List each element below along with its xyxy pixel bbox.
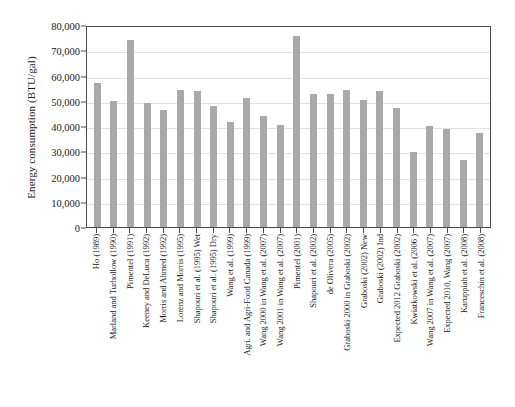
y-axis-tick-label: 50,000 — [51, 96, 80, 107]
y-axis-tick-label: 10,000 — [51, 197, 80, 208]
bar — [194, 91, 201, 227]
x-axis-label-slot: Graboski (2002) Ind — [372, 234, 389, 407]
x-axis-tick-mark — [363, 228, 364, 233]
x-axis-label-slot: Franceschin et al. (2008) — [472, 234, 489, 407]
x-axis-tick-label: Expected 2010, Wang (2007) — [443, 234, 452, 333]
bar — [376, 91, 383, 227]
x-axis-tick-label: Pimentel (1991) — [125, 234, 134, 289]
x-axis-tick-mark — [113, 228, 114, 233]
x-axis-tick-slot — [455, 228, 472, 233]
x-axis-tick-slot — [422, 228, 439, 233]
x-axis-tick-mark — [447, 228, 448, 233]
x-axis-label-slot: Karuppiah et al. (2008) — [455, 234, 472, 407]
x-axis-tick-slot — [355, 228, 372, 233]
bar-slot — [139, 27, 156, 227]
y-axis-tick-label: 30,000 — [51, 147, 80, 158]
bar-slot — [172, 27, 189, 227]
x-axis-label-slot: Wang et al. (1999) — [222, 234, 239, 407]
bar-slot — [239, 27, 256, 227]
bar-slot — [272, 27, 289, 227]
x-axis-tick-mark — [146, 228, 147, 233]
bar-slot — [438, 27, 455, 227]
x-axis-label-slot: Graboski (2002) New — [355, 234, 372, 407]
bar — [343, 90, 350, 227]
bar — [426, 126, 433, 228]
bar — [127, 40, 134, 227]
bar-slot — [189, 27, 206, 227]
x-axis-tick-slot — [238, 228, 255, 233]
x-axis-tick-slot — [288, 228, 305, 233]
bar — [443, 129, 450, 227]
x-axis-label-slot: Wang 2001 in Wang et al. (2007) — [272, 234, 289, 407]
x-axis-label-slot: Pimentel (2001) — [288, 234, 305, 407]
x-axis-label-slot: Ho (1989) — [88, 234, 105, 407]
bar-slot — [305, 27, 322, 227]
y-axis-tick-label: 80,000 — [51, 21, 80, 32]
x-axis-label-slot: Keeney and DeLuca (1992) — [138, 234, 155, 407]
x-axis-tick-label: Morris and Ahmed (1992) — [159, 234, 168, 323]
x-axis-tick-label: Franceschin et al. (2008) — [476, 234, 485, 318]
bar-slot — [372, 27, 389, 227]
x-axis-tick-label: Karuppiah et al. (2008) — [460, 234, 469, 313]
x-axis-tick-label: Graboski 2000 in Graboski (2002) — [343, 234, 352, 351]
bar — [393, 108, 400, 227]
y-axis-tick-label: 70,000 — [51, 46, 80, 57]
bar — [260, 116, 267, 227]
x-axis-label-slot: Marland and Turhollow (1990) — [105, 234, 122, 407]
bar — [310, 94, 317, 227]
x-axis-tick-mark — [179, 228, 180, 233]
x-axis-label-slot: Wang 2007 in Wang et al. (2007) — [422, 234, 439, 407]
x-axis-tick-slot — [222, 228, 239, 233]
x-axis-tick-mark — [397, 228, 398, 233]
x-axis-tick-slot — [389, 228, 406, 233]
x-axis-tick-mark — [129, 228, 130, 233]
plot-area — [86, 26, 491, 228]
x-axis-label-slot: Morris and Ahmed (1992) — [155, 234, 172, 407]
bar — [210, 106, 217, 227]
x-axis-label-slot: Agri. and Agri-Food Canada (1999) — [238, 234, 255, 407]
x-axis-tick-mark — [163, 228, 164, 233]
x-axis-tick-label: Lorenz and Morris (1995) — [176, 234, 185, 322]
bar-slot — [222, 27, 239, 227]
x-axis-tick-slot — [339, 228, 356, 233]
bar — [327, 94, 334, 227]
bar-slot — [405, 27, 422, 227]
bar — [243, 98, 250, 227]
x-axis-label-slot: Pimentel (1991) — [121, 234, 138, 407]
x-axis-tick-label: Marland and Turhollow (1990) — [109, 234, 118, 339]
x-axis-tick-label: Agri. and Agri-Food Canada (1999) — [242, 234, 251, 356]
x-axis-tick-mark — [330, 228, 331, 233]
bar — [94, 83, 101, 227]
x-axis-tick-slot — [121, 228, 138, 233]
x-axis-tick-label: Shapouri et al. (1995) Wet — [192, 234, 201, 323]
bar — [177, 90, 184, 227]
x-axis-label-slot: Shapouri et al. (1995) Wet — [188, 234, 205, 407]
x-axis-tick-label: Expected 2012 Graboski (2002) — [393, 234, 402, 343]
x-axis-tick-label: Shapouri et al. (1995) Dry — [209, 234, 218, 323]
bar — [110, 101, 117, 227]
y-axis-tick-label: 60,000 — [51, 71, 80, 82]
bar — [144, 103, 151, 227]
x-axis-tick-label: Wang et al. (1999) — [226, 234, 235, 297]
bar-slot — [255, 27, 272, 227]
x-axis-tick-mark — [380, 228, 381, 233]
x-axis-tick-slot — [88, 228, 105, 233]
x-axis-tick-label: Kwiatkowski et al. (2006 ) — [409, 234, 418, 325]
bar-slot — [422, 27, 439, 227]
x-axis-tick-slot — [322, 228, 339, 233]
x-axis-tick-slot — [172, 228, 189, 233]
x-axis-tick-mark — [213, 228, 214, 233]
bar-slot — [205, 27, 222, 227]
bar — [160, 110, 167, 227]
bar — [277, 125, 284, 227]
x-axis-label-slot: Wang 2000 in Wang et al. (2007) — [255, 234, 272, 407]
x-axis-tick-mark — [346, 228, 347, 233]
x-axis-tick-slot — [138, 228, 155, 233]
chart-figure: Energy consumption (BTU/gal) 010,00020,0… — [0, 0, 515, 407]
bar — [410, 152, 417, 227]
x-axis-tick-slot — [155, 228, 172, 233]
bar — [227, 122, 234, 227]
y-axis-tick-label: 0 — [75, 223, 80, 234]
x-axis-tick-label: Keeney and DeLuca (1992) — [142, 234, 151, 328]
x-axis-tick-slot — [272, 228, 289, 233]
